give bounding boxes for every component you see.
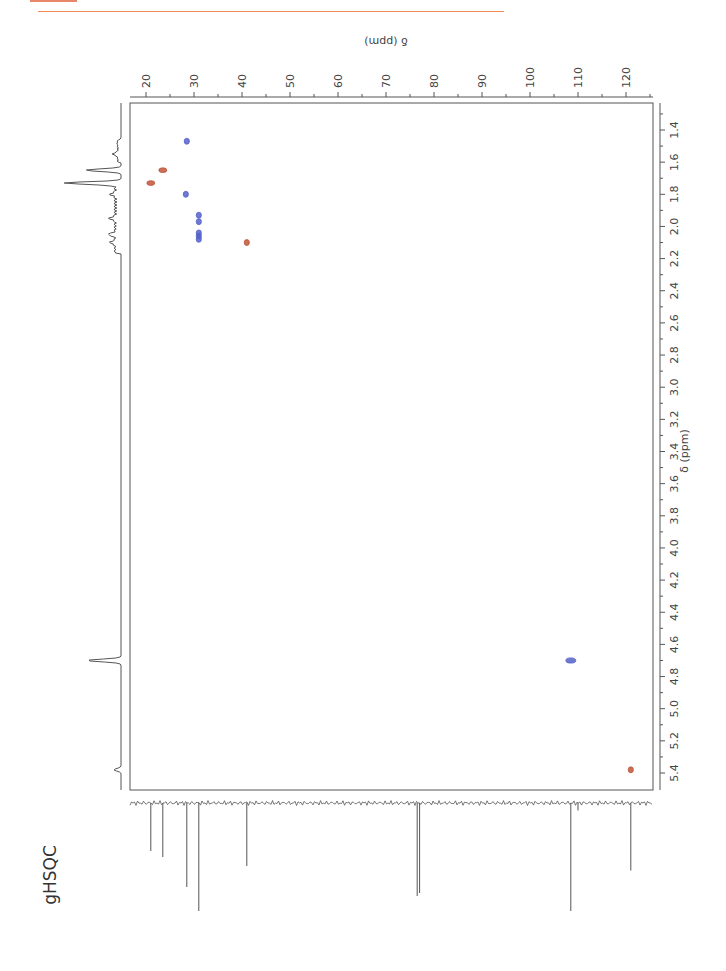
- cross-peak: [566, 658, 576, 663]
- h1-tick-label: 4.2: [668, 571, 681, 589]
- h1-tick-label: 2.4: [668, 282, 681, 300]
- c13-tick-label: 50: [284, 74, 297, 88]
- cross-peak: [147, 181, 155, 186]
- h1-tick-label: 3.0: [668, 378, 681, 396]
- cross-peak: [196, 236, 201, 242]
- plot-frame: [130, 103, 653, 790]
- c13-tick-label: 30: [188, 74, 201, 88]
- h1-tick-label: 5.0: [668, 700, 681, 718]
- h1-tick-label: 2.0: [668, 218, 681, 236]
- c13-tick-label: 60: [332, 74, 345, 88]
- c13-axis-ticks: 2030405060708090100110120: [140, 67, 650, 97]
- h1-tick-label: 4.6: [668, 636, 681, 654]
- hsqc-chart: δ (ppm) 2030405060708090100110120 1.41.6…: [0, 0, 726, 971]
- c13-tick-label: 100: [524, 67, 537, 88]
- c13-tick-label: 80: [428, 74, 441, 88]
- cross-peak: [183, 191, 188, 197]
- c13-tick-label: 110: [572, 67, 585, 88]
- h1-tick-label: 2.6: [668, 314, 681, 332]
- c13-projection-trace: [130, 801, 652, 912]
- h1-tick-label: 1.8: [668, 186, 681, 204]
- h1-tick-label: 1.4: [668, 121, 681, 139]
- h1-tick-label: 4.4: [668, 604, 681, 622]
- h1-tick-label: 3.8: [668, 507, 681, 525]
- c13-tick-label: 70: [380, 74, 393, 88]
- cross-peak: [196, 212, 201, 218]
- cross-peak: [184, 138, 189, 144]
- h1-tick-label: 2.2: [668, 250, 681, 268]
- h1-projection-trace: [64, 103, 121, 790]
- h1-tick-label: 2.8: [668, 346, 681, 364]
- cross-peak: [628, 767, 633, 773]
- c13-tick-label: 120: [620, 67, 633, 88]
- cross-peaks: [147, 138, 634, 773]
- c13-axis-title: δ (ppm): [364, 35, 408, 48]
- h1-tick-label: 5.2: [668, 732, 681, 750]
- h1-tick-label: 3.2: [668, 411, 681, 429]
- h1-tick-label: 5.4: [668, 764, 681, 782]
- cross-peak: [196, 219, 201, 225]
- c13-tick-label: 90: [476, 74, 489, 88]
- cross-peak: [244, 240, 249, 246]
- h1-tick-label: 3.6: [668, 475, 681, 493]
- h1-axis-title: δ (ppm): [678, 429, 691, 473]
- cross-peak: [159, 168, 167, 173]
- c13-tick-label: 20: [140, 74, 153, 88]
- h1-tick-label: 4.0: [668, 539, 681, 557]
- c13-tick-label: 40: [236, 74, 249, 88]
- experiment-label: gHSQC: [40, 845, 60, 905]
- h1-tick-label: 4.8: [668, 668, 681, 686]
- h1-tick-label: 1.6: [668, 153, 681, 171]
